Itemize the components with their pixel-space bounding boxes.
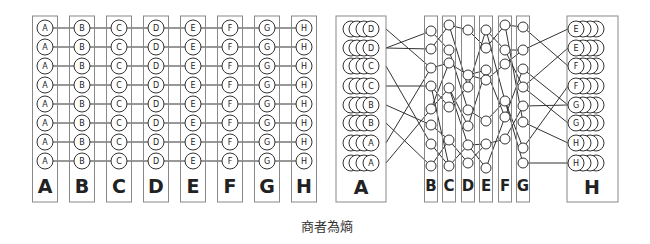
node-label: C (116, 157, 122, 166)
node-label: G (573, 119, 579, 128)
column-f: FFFFFFFFF (218, 16, 243, 202)
node-label: C (116, 24, 122, 33)
node-label: F (228, 24, 233, 33)
node-label: D (153, 138, 159, 147)
node-label: A (42, 100, 48, 109)
node-label: H (573, 139, 579, 148)
node (463, 25, 473, 35)
node (444, 58, 454, 68)
node-label: D (153, 43, 159, 52)
box-d: D (462, 16, 475, 202)
node-label: A (42, 43, 48, 52)
node (444, 135, 454, 145)
node-label: D (153, 100, 159, 109)
node-label: F (228, 81, 233, 90)
node-label: D (368, 44, 374, 53)
node-label: D (153, 157, 159, 166)
node (444, 161, 454, 171)
node-label: H (301, 119, 307, 128)
node-label: D (368, 25, 374, 34)
column-d: DDDDDDDDD (144, 16, 169, 202)
column-h: HHHHHHHHH (292, 16, 317, 202)
node (500, 96, 510, 106)
column-b: BBBBBBBBB (70, 16, 95, 202)
node-label: G (573, 101, 579, 110)
node (426, 81, 436, 91)
node-label: E (190, 81, 195, 90)
node (426, 120, 436, 130)
node-label: C (368, 82, 374, 91)
edges (386, 25, 568, 168)
node-label: H (301, 157, 307, 166)
node-label: B (79, 138, 85, 147)
column-label: B (75, 175, 89, 197)
node-label: A (42, 24, 48, 33)
node-label: G (264, 100, 270, 109)
column-e: EEEEEEEEE (181, 16, 206, 202)
node-label: A (368, 139, 374, 148)
node (500, 112, 510, 122)
node-label: F (574, 62, 579, 71)
node (426, 26, 436, 36)
node-label: B (368, 101, 374, 110)
node (426, 161, 436, 171)
node-label: F (574, 82, 579, 91)
node-label: E (190, 138, 195, 147)
node (444, 83, 454, 93)
box-label: F (500, 177, 510, 195)
node-label: F (228, 62, 233, 71)
node-label: E (190, 62, 195, 71)
node-label: A (42, 62, 48, 71)
box-a-label: A (354, 176, 369, 198)
column-label: G (259, 175, 275, 197)
node-label: B (368, 119, 374, 128)
node-label: A (42, 81, 48, 90)
node-label: B (79, 157, 85, 166)
column-label: C (112, 175, 126, 197)
node (518, 45, 528, 55)
node (500, 45, 510, 55)
node-label: F (228, 100, 233, 109)
node (444, 102, 454, 112)
node (426, 104, 436, 114)
node (518, 22, 528, 32)
node-label: H (301, 62, 307, 71)
node (500, 134, 510, 144)
node-label: F (228, 157, 233, 166)
node (444, 45, 454, 55)
node (481, 116, 491, 126)
caption-text: 商者為熵 (301, 216, 353, 235)
box-label: D (462, 177, 474, 195)
node (481, 139, 491, 149)
node-label: B (79, 24, 85, 33)
node (518, 64, 528, 74)
node-label: B (79, 81, 85, 90)
node (463, 158, 473, 168)
node-label: G (264, 81, 270, 90)
node-label: D (153, 24, 159, 33)
node-label: G (264, 157, 270, 166)
box-h: EEFFGGHHH (567, 16, 618, 202)
node-label: C (116, 100, 122, 109)
box-label: E (481, 177, 491, 195)
box-frame (499, 16, 512, 202)
node-label: H (301, 138, 307, 147)
node-label: B (79, 62, 85, 71)
node (481, 163, 491, 173)
node (500, 59, 510, 69)
node-label: E (573, 25, 578, 34)
box-a: DDCCBBAAA (336, 16, 386, 202)
node-label: D (153, 119, 159, 128)
right-diagram: DDCCBBAAABCDEFGEEFFGGHHH (336, 16, 618, 202)
node-label: B (79, 100, 85, 109)
node-label: E (190, 119, 195, 128)
box-c: C (443, 16, 456, 202)
node (444, 20, 454, 30)
diagram-canvas: AAAAAAAAABBBBBBBBBCCCCCCCCCDDDDDDDDDEEEE… (0, 0, 650, 244)
node-label: G (264, 138, 270, 147)
node-label: E (190, 100, 195, 109)
node-label: E (190, 43, 195, 52)
caption: 商者為熵 (0, 216, 650, 235)
node-label: B (79, 43, 85, 52)
node-label: H (301, 24, 307, 33)
